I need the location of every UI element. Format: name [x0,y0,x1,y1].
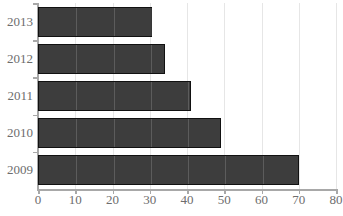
bar-gridline [76,82,77,110]
bar-chart: 2013201220112010200901020304050607080 [0,0,343,216]
gridline [336,3,337,189]
bar-gridline [188,156,189,184]
x-axis-tick-label: 80 [321,192,343,208]
bar-gridline [225,156,226,184]
bar-gridline [151,156,152,184]
bar [38,7,152,37]
y-axis-tick [33,77,38,79]
y-axis-tick [33,115,38,117]
bar [38,81,191,111]
bar-fill [38,7,152,37]
x-axis-tick-label: 20 [98,192,128,208]
y-axis-tick [33,152,38,154]
x-axis-tick-label: 50 [209,192,239,208]
x-axis-tick-label: 70 [284,192,314,208]
x-axis-tick-label: 30 [135,192,165,208]
bar-gridline [151,8,152,36]
bar-fill [38,81,191,111]
bar [38,155,299,185]
bar [38,118,221,148]
bar-gridline [76,119,77,147]
bar-gridline [263,156,264,184]
x-axis-tick-label: 10 [60,192,90,208]
y-axis-tick-label: 2009 [0,162,33,178]
bar-gridline [114,8,115,36]
bar-fill [38,118,221,148]
y-axis-tick-label: 2013 [0,14,33,30]
bar-gridline [188,82,189,110]
bar-fill [38,155,299,185]
bar-gridline [114,82,115,110]
bar-gridline [76,8,77,36]
gridline [299,3,300,189]
bar-gridline [151,45,152,73]
bar-gridline [114,119,115,147]
bar-gridline [151,119,152,147]
y-axis-tick-label: 2011 [0,88,33,104]
bar-fill [38,44,165,74]
chart-title [0,0,343,1]
y-axis-tick [33,40,38,42]
bar-gridline [151,82,152,110]
y-axis-tick [33,3,38,5]
y-axis-tick-label: 2012 [0,51,33,67]
bar-gridline [114,156,115,184]
bar-gridline [76,45,77,73]
x-axis-tick-label: 0 [23,192,53,208]
y-axis-tick-label: 2010 [0,125,33,141]
bar-gridline [188,119,189,147]
bar [38,44,165,74]
bar-gridline [76,156,77,184]
bar-gridline [114,45,115,73]
x-axis-tick-label: 60 [247,192,277,208]
x-axis-tick-label: 40 [172,192,202,208]
